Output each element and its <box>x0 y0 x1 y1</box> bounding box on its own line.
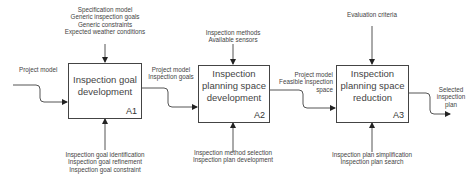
input-label: Project model <box>19 66 58 73</box>
a1-input-label: Project model <box>19 66 58 73</box>
output-label: inspection <box>432 93 470 100</box>
a2-output-label: Project model Feasible inspection space <box>271 71 333 93</box>
activity-id-a2: A2 <box>254 110 265 120</box>
output-label: Inspection goals <box>142 73 200 80</box>
activity-id-a1: A1 <box>126 106 137 116</box>
mechanism-label: Inspection plan development <box>183 156 283 163</box>
output-label: Project model <box>271 71 333 78</box>
activity-box-a1: Inspection goal development A1 <box>68 63 142 119</box>
control-label: Specification model <box>55 6 155 13</box>
output-label: space <box>271 86 333 93</box>
mechanism-label: Inspection goal refinement <box>50 158 160 165</box>
a2-mechanisms-label: Inspection method selection Inspection p… <box>183 149 283 164</box>
a2-controls-label: Inspection methods Available sensors <box>193 29 273 44</box>
a1-mechanisms-label: Inspection goal identification Inspectio… <box>50 151 160 173</box>
mechanism-label: Inspection plan simplification <box>322 151 422 158</box>
output-label: Selected <box>432 86 470 93</box>
mechanism-label: Inspection goal constraint <box>50 166 160 173</box>
a1-controls-label: Specification model Generic inspection g… <box>55 6 155 36</box>
control-label: Expected weather conditions <box>55 28 155 35</box>
activity-id-a3: A3 <box>393 110 404 120</box>
control-label: Available sensors <box>193 36 273 43</box>
control-label: Generic inspection goals <box>55 13 155 20</box>
activity-box-a2: Inspection planning space development A2 <box>198 65 270 123</box>
mechanism-label: Inspection method selection <box>183 149 283 156</box>
a3-controls-label: Evaluation criteria <box>340 11 404 18</box>
mechanism-label: Inspection goal identification <box>50 151 160 158</box>
output-label: plan <box>432 101 470 108</box>
activity-box-a3: Inspection planning space reduction A3 <box>336 65 409 123</box>
mechanism-label: Inspection plan search <box>322 158 422 165</box>
a1-output-label: Project model Inspection goals <box>142 66 200 81</box>
control-label: Inspection methods <box>193 29 273 36</box>
activity-title-a2: Inspection planning space development <box>199 68 269 104</box>
activity-title-a1: Inspection goal development <box>69 74 141 98</box>
a3-mechanisms-label: Inspection plan simplification Inspectio… <box>322 151 422 166</box>
control-label: Evaluation criteria <box>340 11 404 18</box>
a3-output-label: Selected inspection plan <box>432 86 470 108</box>
output-label: Project model <box>142 66 200 73</box>
activity-title-a3: Inspection planning space reduction <box>337 68 408 104</box>
control-label: Generic constraints <box>55 21 155 28</box>
output-label: Feasible inspection <box>271 78 333 85</box>
